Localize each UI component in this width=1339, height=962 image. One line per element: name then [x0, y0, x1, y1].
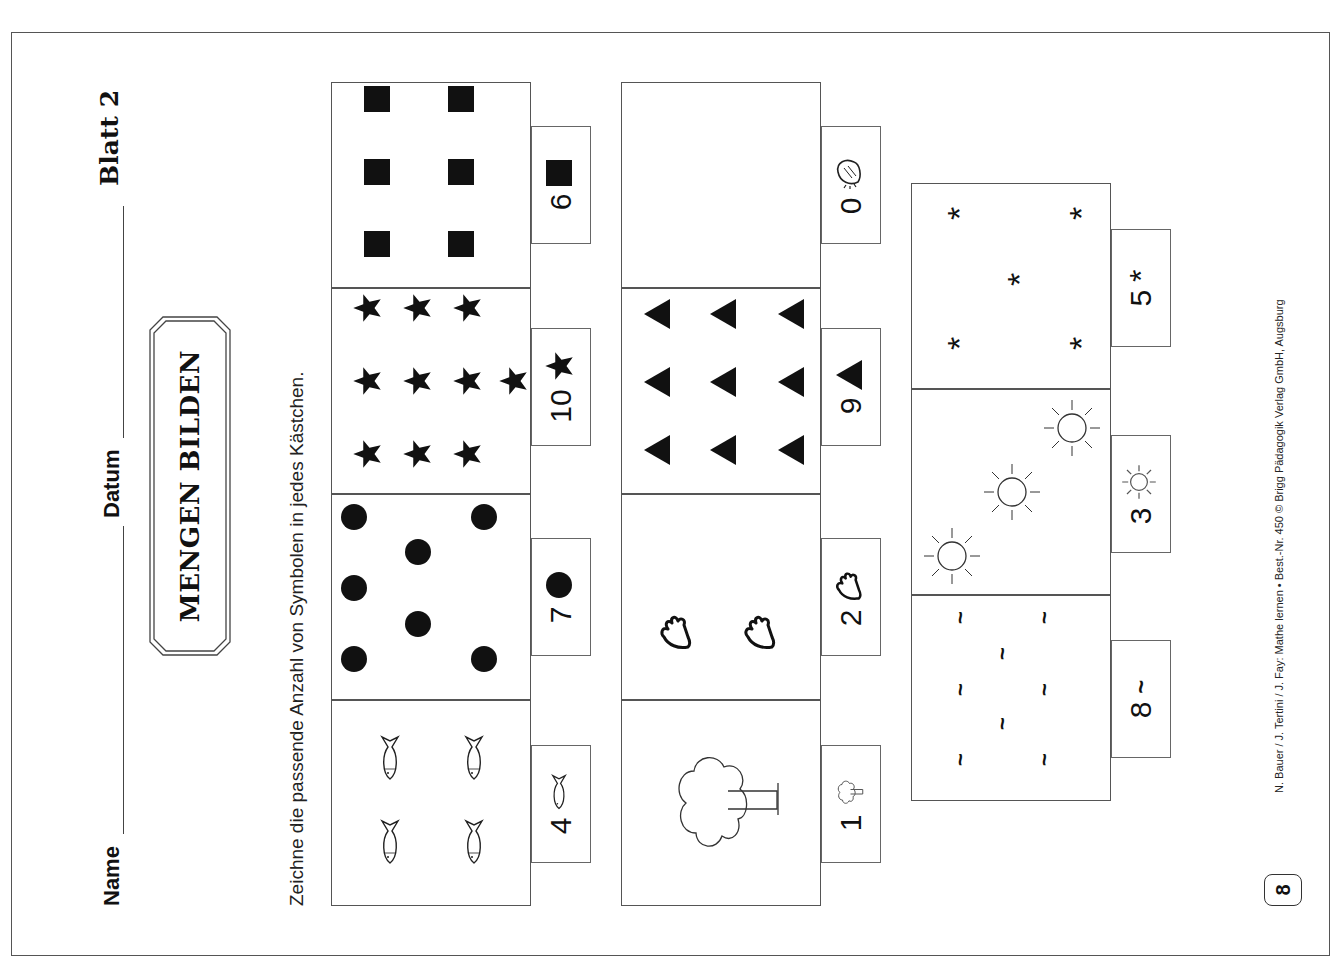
answer-box-suns[interactable]	[911, 389, 1111, 595]
instruction-text: Zeichne die passende Anzahl von Symbolen…	[286, 372, 308, 906]
count-number: 0	[834, 198, 868, 215]
tilde-icon: ~	[948, 753, 974, 766]
count-tag: 1	[821, 745, 881, 863]
star-icon	[402, 439, 432, 469]
title-box: MENGEN BILDEN	[149, 316, 231, 656]
star-icon	[498, 366, 528, 396]
count-tag: 8 ~	[1111, 640, 1171, 758]
square-icon	[546, 160, 576, 186]
answer-box-circles[interactable]	[331, 494, 531, 700]
count-number: 8	[1124, 702, 1158, 719]
name-label: Name	[99, 846, 125, 906]
fish-icon	[380, 819, 400, 865]
triangle-icon	[778, 435, 804, 465]
asterisk-icon: *	[1123, 269, 1160, 281]
fish-icon	[380, 735, 400, 781]
star-icon	[544, 351, 578, 381]
asterisk-icon: *	[940, 337, 979, 350]
star-icon	[352, 293, 382, 323]
tilde-icon: ~	[990, 717, 1016, 730]
count-tag: 5 *	[1111, 229, 1171, 347]
tilde-icon: ~	[948, 683, 974, 696]
sun-icon	[1042, 398, 1102, 458]
count-tag: 10	[531, 328, 591, 446]
sun-icon	[922, 526, 982, 586]
count-number: 9	[834, 398, 868, 415]
answer-box-asterisks[interactable]: * * * * *	[911, 183, 1111, 389]
star-icon	[352, 366, 382, 396]
star-icon	[452, 293, 482, 323]
answer-box-empty[interactable]	[621, 82, 821, 288]
tree-icon	[662, 741, 782, 861]
bread-icon	[834, 156, 868, 190]
sun-icon	[1121, 464, 1161, 500]
tilde-icon: ~	[990, 647, 1016, 660]
answer-box-tree[interactable]	[621, 700, 821, 906]
answer-box-triangles[interactable]	[621, 288, 821, 494]
answer-box-tildes[interactable]: ~ ~ ~ ~ ~ ~ ~ ~	[911, 595, 1111, 801]
count-tag: 6	[531, 126, 591, 244]
count-number: 2	[834, 610, 868, 627]
count-tag: 4	[531, 745, 591, 863]
circle-icon	[340, 574, 368, 602]
sheet-label: Blatt 2	[95, 90, 124, 186]
name-line	[123, 526, 124, 834]
star-icon	[452, 439, 482, 469]
square-icon	[448, 86, 474, 112]
copyright-credit: N. Bauer / J. Tertini / J. Fay: Mathe le…	[1273, 299, 1285, 793]
fish-icon	[464, 819, 484, 865]
triangle-icon	[644, 367, 670, 397]
square-icon	[364, 86, 390, 112]
count-number: 1	[834, 815, 868, 832]
tilde-icon: ~	[1032, 683, 1058, 696]
triangle-icon	[644, 435, 670, 465]
asterisk-icon: *	[1062, 207, 1101, 220]
triangle-icon	[836, 360, 866, 390]
answer-box-squares[interactable]	[331, 82, 531, 288]
star-icon	[452, 366, 482, 396]
triangle-icon	[710, 435, 736, 465]
triangle-icon	[710, 299, 736, 329]
tree-icon	[831, 777, 871, 807]
count-number: 3	[1124, 508, 1158, 525]
star-icon	[402, 293, 432, 323]
triangle-icon	[644, 299, 670, 329]
star-icon	[402, 366, 432, 396]
count-tag: 2	[821, 538, 881, 656]
circle-icon	[340, 503, 368, 531]
hand-icon	[658, 611, 694, 651]
triangle-icon	[778, 299, 804, 329]
count-tag: 3	[1111, 435, 1171, 553]
asterisk-icon: *	[940, 207, 979, 220]
circle-icon	[470, 503, 498, 531]
asterisk-icon: *	[1000, 273, 1039, 286]
star-icon	[352, 439, 382, 469]
hand-icon	[742, 611, 778, 651]
count-number: 4	[544, 818, 578, 835]
count-number: 7	[544, 607, 578, 624]
page-title: MENGEN BILDEN	[149, 316, 231, 656]
triangle-icon	[778, 367, 804, 397]
square-icon	[448, 159, 474, 185]
circle-icon	[404, 610, 432, 638]
square-icon	[364, 231, 390, 257]
answer-box-hands[interactable]	[621, 494, 821, 700]
date-label: Datum	[99, 450, 125, 518]
hand-icon	[834, 568, 868, 602]
answer-box-stars[interactable]	[331, 288, 531, 494]
count-tag: 7	[531, 538, 591, 656]
count-number: 10	[544, 389, 578, 422]
tilde-icon: ~	[948, 611, 974, 624]
date-line	[123, 206, 124, 438]
circle-icon	[545, 571, 577, 599]
tilde-icon: ~	[1127, 680, 1155, 694]
triangle-icon	[710, 367, 736, 397]
count-tag: 0	[821, 126, 881, 244]
fish-icon	[551, 774, 571, 810]
answer-box-fish[interactable]	[331, 700, 531, 906]
count-number: 6	[544, 194, 578, 211]
circle-icon	[404, 538, 432, 566]
fish-icon	[464, 735, 484, 781]
worksheet-page: Name Datum Blatt 2 MENGEN BILDEN Zeichne…	[11, 32, 1330, 956]
asterisk-icon: *	[1062, 337, 1101, 350]
